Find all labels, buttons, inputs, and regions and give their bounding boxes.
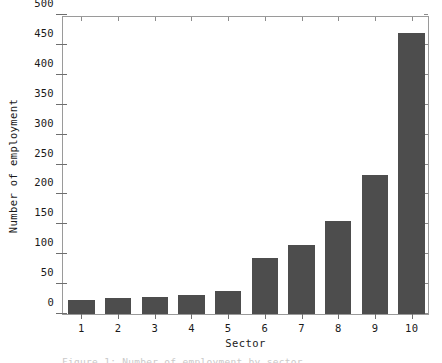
y-axis-tick-label: 250 <box>34 147 54 159</box>
top-frame-tick <box>118 17 119 21</box>
y-axis-title-label: Number of employment <box>7 98 19 232</box>
x-axis-tick <box>191 314 192 319</box>
y-axis-tick-label: 200 <box>34 176 54 188</box>
y-axis-tick <box>56 313 63 314</box>
y-axis-tick-inner <box>63 164 67 165</box>
y-axis-tick-inner <box>63 313 67 314</box>
x-axis-tick <box>302 314 303 319</box>
y-axis-tick <box>56 253 63 254</box>
y-axis-tick-label: 400 <box>34 57 54 69</box>
y-axis-tick <box>56 193 63 194</box>
top-frame-tick <box>155 17 156 21</box>
top-frame-tick <box>228 17 229 21</box>
bar <box>362 175 388 314</box>
y-axis-tick-label: 300 <box>34 117 54 129</box>
x-axis-tick <box>155 314 156 319</box>
x-axis-tick-label: 7 <box>298 322 305 334</box>
y-axis-tick-inner <box>63 14 67 15</box>
x-axis-tick-label: 1 <box>78 322 85 334</box>
x-axis-tick-label: 10 <box>405 322 418 334</box>
plot-area: 050100150200250300350400450500 123456789… <box>62 16 429 315</box>
bar <box>105 298 131 314</box>
x-axis-title: Sector <box>62 337 429 349</box>
y-axis-tick <box>56 104 63 105</box>
bar-chart-figure: Number of employment 0501001502002503003… <box>0 0 442 363</box>
y-axis-tick <box>56 14 63 15</box>
top-frame-tick <box>265 17 266 21</box>
bar <box>252 258 278 314</box>
bar <box>288 245 314 314</box>
y-axis-tick <box>56 223 63 224</box>
x-axis-tick <box>265 314 266 319</box>
top-frame-tick <box>81 17 82 21</box>
x-axis-tick-label: 8 <box>335 322 342 334</box>
x-axis-tick <box>338 314 339 319</box>
x-axis-tick-label: 5 <box>225 322 232 334</box>
x-axis-title-label: Sector <box>225 337 265 349</box>
top-frame-tick <box>191 17 192 21</box>
x-axis-tick-label: 6 <box>262 322 269 334</box>
x-axis-tick <box>118 314 119 319</box>
bar <box>325 221 351 314</box>
top-frame-tick <box>375 17 376 21</box>
y-axis-tick-label: 150 <box>34 206 54 218</box>
bar <box>142 297 168 314</box>
y-axis-tick-inner <box>63 134 67 135</box>
y-axis-tick <box>56 44 63 45</box>
y-axis-tick-label: 450 <box>34 27 54 39</box>
bar <box>68 300 94 314</box>
y-axis-tick-label: 50 <box>41 266 54 278</box>
x-axis-tick <box>375 314 376 319</box>
figure-caption: Figure 1: Number of employment by sector <box>62 356 392 363</box>
x-axis-tick <box>228 314 229 319</box>
x-axis-tick-label: 4 <box>188 322 195 334</box>
bar <box>215 291 241 314</box>
y-axis-tick-inner <box>63 283 67 284</box>
y-axis-tick-inner <box>63 223 67 224</box>
y-axis-tick-inner <box>63 193 67 194</box>
x-axis-tick-label: 9 <box>372 322 379 334</box>
y-axis-tick-inner <box>63 253 67 254</box>
y-axis-tick-inner <box>63 104 67 105</box>
top-frame-tick <box>412 17 413 21</box>
top-frame-tick <box>302 17 303 21</box>
y-axis-tick <box>56 74 63 75</box>
y-axis-tick-label: 0 <box>47 296 54 308</box>
y-axis-tick-inner <box>63 74 67 75</box>
bar <box>398 33 424 314</box>
y-axis-tick-label: 100 <box>34 236 54 248</box>
y-axis-tick <box>56 283 63 284</box>
x-axis-tick <box>412 314 413 319</box>
y-axis-tick-label: 350 <box>34 87 54 99</box>
x-axis-tick-label: 3 <box>151 322 158 334</box>
top-frame-tick <box>338 17 339 21</box>
x-axis-tick-label: 2 <box>115 322 122 334</box>
y-axis-tick <box>56 164 63 165</box>
y-axis-tick-inner <box>63 44 67 45</box>
y-axis-title: Number of employment <box>0 0 26 331</box>
y-axis-tick-label: 500 <box>34 0 54 9</box>
right-frame-tick <box>424 14 428 15</box>
bar <box>178 295 204 314</box>
x-axis-tick <box>81 314 82 319</box>
y-axis-tick <box>56 134 63 135</box>
